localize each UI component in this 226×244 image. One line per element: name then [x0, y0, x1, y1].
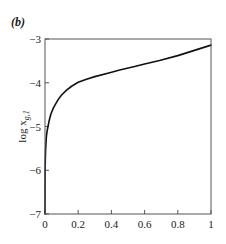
y-tick-label: −3	[29, 33, 41, 45]
x-tick-label: 0.4	[105, 218, 119, 230]
x-axis-ticks: 00.20.40.60.81	[42, 210, 214, 230]
panel-label: (b)	[11, 15, 25, 29]
y-tick-label: −7	[29, 208, 41, 220]
y-tick-label: −6	[29, 164, 41, 176]
y-axis-label-subscript: g,1	[22, 110, 31, 120]
x-tick-label: 0.2	[71, 218, 85, 230]
plot-area-frame	[45, 39, 211, 214]
chart: (b) log xg,1 −3−4−5−6−7 00.20.40.60.81	[0, 0, 226, 244]
y-tick-label: −4	[29, 77, 41, 89]
data-line	[45, 45, 211, 214]
x-tick-label: 1	[208, 218, 214, 230]
y-axis-label-main: log x	[16, 120, 28, 143]
y-tick-label: −5	[29, 121, 41, 133]
x-tick-label: 0	[42, 218, 48, 230]
x-tick-label: 0.8	[171, 218, 185, 230]
y-axis-ticks: −3−4−5−6−7	[29, 33, 49, 220]
x-tick-label: 0.6	[138, 218, 152, 230]
